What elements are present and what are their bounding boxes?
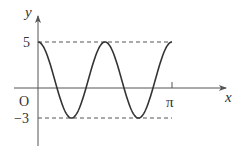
y-axis-label: y (23, 4, 32, 20)
x-axis-label: x (224, 89, 232, 105)
origin-label: O (19, 94, 29, 109)
pi-tick-label: π (166, 94, 174, 110)
cosine-curve (38, 42, 172, 118)
y-min-label: −3 (14, 111, 29, 126)
function-graph: y x 5 −3 O π (0, 0, 244, 153)
y-max-label: 5 (23, 35, 30, 50)
